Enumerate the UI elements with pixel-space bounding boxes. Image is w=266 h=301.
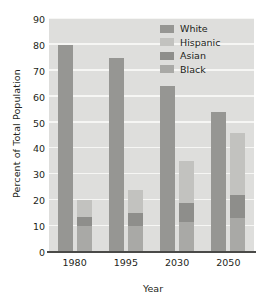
bar-white-2030 [160, 86, 175, 252]
legend-swatch-asian-icon [160, 52, 174, 60]
bar-segment-hispanic-1980 [77, 200, 92, 217]
y-tick-label: 40 [9, 143, 45, 154]
y-tick-label: 90 [9, 14, 45, 25]
x-axis-line [47, 251, 256, 253]
y-tick-label: 30 [9, 169, 45, 180]
y-tick-label: 20 [9, 195, 45, 206]
legend-swatch-white-icon [160, 25, 174, 33]
bar-white-1980 [58, 45, 73, 252]
legend-swatch-hispanic-icon [160, 38, 174, 46]
x-tick-label: 2030 [165, 257, 189, 268]
bar-stacked-1980 [77, 200, 92, 252]
legend-label: White [180, 24, 208, 34]
bar-segment-asian-2030 [179, 203, 194, 222]
bar-segment-asian-1980 [77, 217, 92, 226]
gridline [49, 95, 254, 97]
chart-legend: WhiteHispanicAsianBlack [160, 22, 252, 76]
legend-swatch-black-icon [160, 65, 174, 73]
legend-item-black: Black [160, 63, 252, 77]
y-tick-label: 50 [9, 117, 45, 128]
bar-white-1995 [109, 58, 124, 252]
bar-stacked-2050 [230, 133, 245, 252]
bar-segment-black-2050 [230, 218, 245, 252]
legend-item-white: White [160, 22, 252, 36]
y-tick-label: 0 [9, 247, 45, 258]
bar-segment-black-1995 [128, 226, 143, 252]
x-axis-tick-labels: 1980199520302050 [49, 257, 254, 273]
x-tick-label: 1995 [114, 257, 138, 268]
legend-item-asian: Asian [160, 49, 252, 63]
bar-stacked-2030 [179, 161, 194, 252]
x-tick-label: 1980 [63, 257, 87, 268]
y-tick-label: 10 [9, 221, 45, 232]
bar-segment-asian-2050 [230, 195, 245, 218]
bar-segment-black-2030 [179, 222, 194, 252]
bar-segment-black-1980 [77, 226, 92, 252]
legend-label: Hispanic [180, 38, 220, 48]
y-tick-label: 80 [9, 39, 45, 50]
bar-white-2050 [211, 112, 226, 252]
gridline [49, 18, 254, 20]
legend-label: Black [180, 65, 206, 75]
bar-segment-asian-1995 [128, 213, 143, 226]
x-tick-label: 2050 [216, 257, 240, 268]
y-tick-label: 70 [9, 65, 45, 76]
bar-segment-hispanic-2050 [230, 133, 245, 195]
x-axis-title: Year [40, 283, 266, 294]
bar-segment-hispanic-1995 [128, 190, 143, 213]
y-tick-label: 60 [9, 91, 45, 102]
chart-figure: Percent of Total Population 010203040506… [0, 0, 266, 301]
bar-stacked-1995 [128, 190, 143, 252]
legend-item-hispanic: Hispanic [160, 36, 252, 50]
legend-label: Asian [180, 51, 206, 61]
bar-segment-hispanic-2030 [179, 161, 194, 202]
y-axis-tick-labels: 0102030405060708090 [4, 19, 45, 252]
